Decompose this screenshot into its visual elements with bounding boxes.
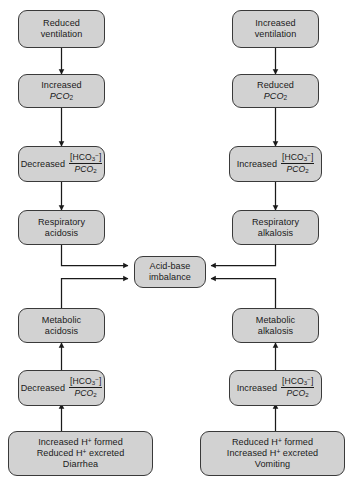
node-text-line1: Metabolic [19, 315, 104, 326]
edge-respiratory-acidosis-to-imbalance [62, 245, 129, 266]
ratio-label: Increased [237, 159, 277, 170]
node-metabolic-alkalosis: Metabolic alkalosis [232, 308, 319, 343]
ratio-label: Increased [237, 383, 277, 394]
fraction-numerator: [HCO3−] [281, 153, 314, 164]
node-text-line1: Acid-base [135, 261, 205, 272]
fraction-denominator: PCO2 [281, 388, 314, 398]
node-reduced-ventilation: Reduced ventilation [18, 10, 105, 48]
node-text-line2: alkalosis [233, 326, 318, 337]
node-metabolic-alkalosis-causes: Reduced H+ formed Increased H+ excreted … [200, 431, 345, 476]
ratio-label: Decreased [21, 383, 65, 394]
node-text-line2: ventilation [233, 29, 318, 40]
fraction-denominator: PCO2 [69, 388, 102, 398]
fraction-denominator: PCO2 [69, 164, 102, 174]
fraction: [HCO3−] PCO2 [281, 153, 314, 174]
node-text-line3: Diarrhea [9, 459, 152, 470]
node-text-line2: Increased H+ excreted [201, 448, 344, 459]
node-text-line1: Reduced H+ formed [201, 437, 344, 448]
node-metabolic-acidosis: Metabolic acidosis [18, 308, 105, 343]
node-text-line2: PCO2 [19, 91, 104, 102]
node-text-line2: ventilation [19, 29, 104, 40]
node-increased-ventilation: Increased ventilation [232, 10, 319, 48]
node-text-line2: acidosis [19, 228, 104, 239]
node-increased-bicarb-pco2-ratio-bottom: Increased [HCO3−] PCO2 [229, 370, 322, 406]
node-metabolic-acidosis-causes: Increased H+ formed Reduced H+ excreted … [8, 431, 153, 476]
node-text-line2: acidosis [19, 326, 104, 337]
node-text-line1: Increased H+ formed [9, 437, 152, 448]
node-text-line2: alkalosis [233, 228, 318, 239]
node-acid-base-imbalance: Acid-base imbalance [134, 256, 206, 288]
node-text-line1: Increased [233, 18, 318, 29]
node-respiratory-acidosis: Respiratory acidosis [18, 210, 105, 245]
node-text-line2: imbalance [135, 272, 205, 283]
node-text-line2: Reduced H+ excreted [9, 448, 152, 459]
fraction-numerator: [HCO3−] [281, 377, 314, 388]
fraction-numerator: [HCO3−] [69, 377, 102, 388]
node-text-line2: PCO2 [233, 91, 318, 102]
ratio-label: Decreased [21, 159, 65, 170]
fraction: [HCO3−] PCO2 [69, 377, 102, 398]
node-increased-pco2: Increased PCO2 [18, 74, 105, 108]
node-increased-bicarb-pco2-ratio-top: Increased [HCO3−] PCO2 [229, 146, 322, 182]
node-text-line1: Metabolic [233, 315, 318, 326]
node-text-line1: Respiratory [19, 217, 104, 228]
node-decreased-bicarb-pco2-ratio-top: Decreased [HCO3−] PCO2 [18, 146, 105, 182]
node-text-line1: Reduced [233, 80, 318, 91]
fraction-denominator: PCO2 [281, 164, 314, 174]
node-respiratory-alkalosis: Respiratory alkalosis [232, 210, 319, 245]
fraction: [HCO3−] PCO2 [281, 377, 314, 398]
node-text-line3: Vomiting [201, 459, 344, 470]
node-text-line1: Reduced [19, 18, 104, 29]
fraction: [HCO3−] PCO2 [69, 153, 102, 174]
fraction-numerator: [HCO3−] [69, 153, 102, 164]
node-decreased-bicarb-pco2-ratio-bottom: Decreased [HCO3−] PCO2 [18, 370, 105, 406]
edge-respiratory-alkalosis-to-imbalance [211, 245, 276, 266]
node-reduced-pco2: Reduced PCO2 [232, 74, 319, 108]
node-text-line1: Increased [19, 80, 104, 91]
node-text-line1: Respiratory [233, 217, 318, 228]
